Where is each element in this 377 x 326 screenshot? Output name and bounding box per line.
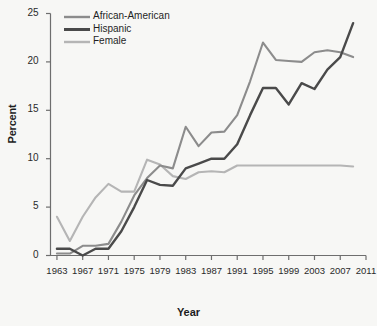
y-tick-label: 25 [13, 7, 39, 18]
legend-label-african-american: African-American [93, 10, 170, 21]
series-line-female [57, 160, 353, 241]
line-chart-figure: Percent Year 0510152025 1963196719711975… [0, 0, 377, 326]
y-tick-label: 0 [13, 249, 39, 260]
legend-label-female: Female [93, 35, 126, 46]
y-tick-label: 20 [13, 55, 39, 66]
x-tick-label: 2011 [349, 265, 377, 276]
legend-label-hispanic: Hispanic [93, 23, 131, 34]
plot-area [0, 0, 377, 326]
y-tick-label: 15 [13, 103, 39, 114]
y-tick-label: 5 [13, 200, 39, 211]
y-tick-label: 10 [13, 152, 39, 163]
series-line-african-american [57, 43, 353, 254]
